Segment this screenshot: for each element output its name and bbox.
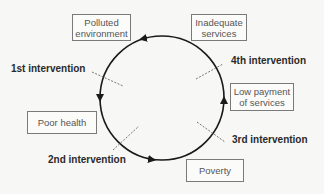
label-2nd-intervention: 2nd intervention [48, 154, 126, 165]
intervention-2-line [113, 126, 139, 150]
node-low-payment-of-services: Low payment of services [230, 83, 294, 111]
node-polluted-environment: Polluted environment [72, 14, 131, 41]
node-poor-health: Poor health [27, 111, 97, 134]
arrowhead-bottom [148, 159, 154, 160]
intervention-4-line [196, 64, 223, 79]
intervention-1-line [92, 72, 123, 86]
cycle-diagram: Polluted environment Inadequate services… [0, 0, 324, 194]
label-1st-intervention: 1st intervention [11, 63, 85, 74]
cycle-circle [100, 36, 224, 160]
intervention-3-line [197, 122, 225, 142]
arrowhead-top [141, 38, 146, 39]
node-poverty: Poverty [186, 159, 244, 182]
label-3rd-intervention: 3rd intervention [232, 134, 308, 145]
node-inadequate-services: Inadequate services [191, 14, 247, 41]
label-4th-intervention: 4th intervention [231, 55, 306, 66]
